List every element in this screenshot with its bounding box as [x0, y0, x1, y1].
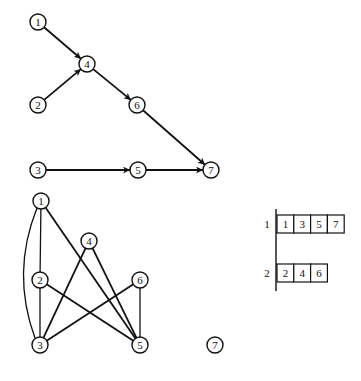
node-label: 2 — [35, 99, 41, 111]
graph-node: 2 — [30, 97, 46, 113]
undirected-graph-nodes: 1234567 — [32, 193, 223, 353]
row-label: 2 — [264, 267, 270, 279]
graph-node: 7 — [207, 337, 223, 353]
directed-edge — [93, 69, 131, 100]
svg-text:4: 4 — [299, 267, 305, 279]
graph-edge — [40, 209, 41, 272]
graph-edge — [43, 248, 85, 338]
graph-node: 3 — [30, 162, 46, 178]
graph-node: 4 — [81, 233, 97, 249]
node-label: 1 — [35, 16, 41, 28]
graph-diagram: 1234567 1234567 113572246 — [0, 0, 361, 381]
table-cell: 5 — [311, 215, 328, 233]
node-label: 6 — [137, 274, 143, 286]
node-label: 5 — [137, 339, 143, 351]
node-label: 3 — [35, 164, 41, 176]
table-cell: 6 — [311, 264, 328, 282]
graph-node: 3 — [32, 337, 48, 353]
node-label: 4 — [84, 58, 90, 70]
partition-table: 113572246 — [264, 209, 344, 291]
node-label: 6 — [134, 99, 140, 111]
node-label: 3 — [37, 339, 43, 351]
directed-edge — [44, 69, 81, 100]
graph-node: 1 — [30, 14, 46, 30]
svg-text:3: 3 — [299, 218, 305, 230]
table-cell: 1 — [277, 215, 294, 233]
graph-node: 6 — [129, 97, 145, 113]
node-label: 4 — [86, 235, 92, 247]
directed-edge — [143, 110, 205, 164]
svg-text:2: 2 — [283, 267, 289, 279]
graph-node: 1 — [33, 193, 49, 209]
node-label: 7 — [208, 164, 214, 176]
svg-text:6: 6 — [316, 267, 322, 279]
graph-edge — [46, 208, 136, 339]
table-cell: 3 — [294, 215, 311, 233]
graph-node: 6 — [132, 272, 148, 288]
graph-node: 2 — [32, 272, 48, 288]
svg-text:5: 5 — [316, 218, 322, 230]
graph-node: 7 — [203, 162, 219, 178]
table-cell: 7 — [327, 215, 344, 233]
directed-graph-edges — [44, 27, 205, 170]
table-cell: 2 — [277, 264, 294, 282]
node-label: 1 — [38, 195, 44, 207]
graph-edge — [93, 248, 137, 338]
node-label: 2 — [37, 274, 43, 286]
row-label: 1 — [264, 218, 270, 230]
directed-edge — [44, 27, 81, 59]
node-label: 5 — [135, 164, 141, 176]
svg-text:1: 1 — [283, 218, 289, 230]
svg-text:7: 7 — [333, 218, 339, 230]
graph-node: 4 — [79, 56, 95, 72]
node-label: 7 — [212, 339, 218, 351]
table-cell: 4 — [294, 264, 311, 282]
graph-node: 5 — [130, 162, 146, 178]
graph-node: 5 — [132, 337, 148, 353]
